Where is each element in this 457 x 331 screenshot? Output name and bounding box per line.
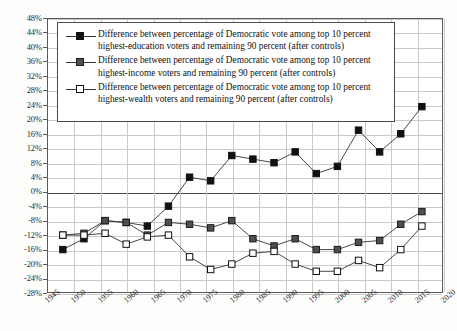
data-point-education [207, 178, 213, 184]
data-point-income [313, 246, 319, 252]
data-point-education [250, 156, 256, 162]
data-point-wealth [165, 232, 171, 238]
y-axis-tick-label: 20% [0, 115, 42, 124]
series-line-education [63, 107, 422, 250]
legend-label-wealth: Difference between percentage of Democra… [98, 81, 371, 105]
y-axis-tick-label: 48% [0, 14, 42, 23]
data-point-income [102, 217, 108, 223]
y-axis-tick-label: 0% [0, 187, 42, 196]
legend-label-wealth-line1: Difference between percentage of Democra… [98, 81, 371, 93]
chart-legend: Difference between percentage of Democra… [57, 22, 395, 122]
y-axis-tick-label: 40% [0, 43, 42, 52]
data-point-income [398, 221, 404, 227]
data-point-income [165, 219, 171, 225]
data-point-income [186, 221, 192, 227]
data-point-income [292, 236, 298, 242]
data-point-wealth [376, 264, 382, 270]
legend-label-income: Difference between percentage of Democra… [98, 54, 371, 78]
y-axis-tick-label: 44% [0, 28, 42, 37]
legend-label-education-line2: highest-education voters and remaining 9… [98, 40, 371, 52]
data-point-education [355, 127, 361, 133]
legend-label-income-line1: Difference between percentage of Democra… [98, 54, 371, 66]
legend-label-education: Difference between percentage of Democra… [98, 28, 371, 52]
data-point-wealth [334, 268, 340, 274]
data-point-education [186, 174, 192, 180]
data-point-wealth [355, 257, 361, 263]
data-point-wealth [250, 250, 256, 256]
y-axis-tick-label: 16% [0, 130, 42, 139]
legend-key-education-icon [64, 30, 98, 43]
data-point-income [123, 219, 129, 225]
data-point-education [313, 170, 319, 176]
legend-label-wealth-line2: highest-wealth voters and remaining 90 p… [98, 93, 371, 105]
legend-key-income-icon [64, 56, 98, 69]
y-axis-tick-label: 12% [0, 144, 42, 153]
legend-row-wealth: Difference between percentage of Democra… [64, 81, 386, 105]
legend-row-income: Difference between percentage of Democra… [64, 54, 386, 78]
legend-label-education-line1: Difference between percentage of Democra… [98, 28, 371, 40]
data-point-income [355, 239, 361, 245]
data-point-wealth [229, 261, 235, 267]
data-point-education [398, 131, 404, 137]
data-point-income [376, 237, 382, 243]
data-point-wealth [81, 232, 87, 238]
data-point-education [419, 103, 425, 109]
data-point-wealth [186, 254, 192, 260]
data-point-education [60, 246, 66, 252]
legend-key-wealth-icon [64, 83, 98, 96]
data-point-education [271, 160, 277, 166]
data-point-wealth [398, 246, 404, 252]
series-line-wealth [63, 226, 422, 271]
chart-figure: 48%44%40%36%32%28%24%20%16%12%8%4%0%-4%-… [0, 0, 457, 331]
gridline-vertical [444, 19, 445, 292]
data-point-wealth [419, 223, 425, 229]
data-point-education [334, 163, 340, 169]
data-point-income [419, 208, 425, 214]
data-point-wealth [60, 232, 66, 238]
data-point-education [144, 223, 150, 229]
data-point-wealth [144, 234, 150, 240]
y-axis-tick-label: 28% [0, 86, 42, 95]
data-point-education [165, 203, 171, 209]
y-axis-tick-label: 4% [0, 173, 42, 182]
data-point-wealth [271, 248, 277, 254]
data-point-income [229, 217, 235, 223]
data-point-wealth [207, 266, 213, 272]
data-point-income [207, 225, 213, 231]
data-point-wealth [123, 241, 129, 247]
y-axis-tick-label: -12% [0, 231, 42, 240]
y-axis-tick-label: 32% [0, 72, 42, 81]
y-axis-tick-label: -8% [0, 216, 42, 225]
y-axis-tick-label: 24% [0, 101, 42, 110]
y-axis-tick-label: -4% [0, 202, 42, 211]
data-point-income [334, 246, 340, 252]
y-axis-tick-label: -16% [0, 245, 42, 254]
y-axis-tick-label: -28% [0, 289, 42, 298]
y-axis-tick-label: 36% [0, 57, 42, 66]
data-point-education [376, 149, 382, 155]
data-point-income [250, 236, 256, 242]
y-axis-tick-label: -20% [0, 260, 42, 269]
data-point-wealth [313, 268, 319, 274]
y-axis-tick-label: 8% [0, 159, 42, 168]
data-point-wealth [292, 261, 298, 267]
y-axis-tick-label: -24% [0, 274, 42, 283]
data-point-education [292, 149, 298, 155]
legend-label-income-line2: highest-income voters and remaining 90 p… [98, 67, 371, 79]
data-point-education [229, 152, 235, 158]
series-line-income [63, 212, 422, 250]
data-point-wealth [102, 230, 108, 236]
legend-row-education: Difference between percentage of Democra… [64, 28, 386, 52]
